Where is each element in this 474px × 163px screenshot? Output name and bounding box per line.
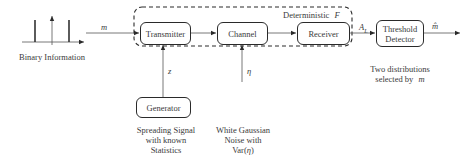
output-m-hat-symbol: m̂	[432, 21, 438, 31]
noise-desc-line1: White Gaussian	[203, 125, 283, 135]
var-prefix: Var(	[232, 145, 247, 155]
channel-label: Channel	[228, 29, 256, 39]
receiver-block: Receiver	[297, 22, 350, 45]
detector-description: Two distributions selected by m	[355, 64, 445, 84]
transmitter-label: Transmitter	[146, 29, 185, 39]
transmitter-block: Transmitter	[140, 22, 191, 45]
generator-desc-line1: Spreading Signal	[126, 125, 206, 135]
input-m-symbol: m	[101, 22, 107, 32]
threshold-detector-label-line2: Detector	[385, 34, 414, 44]
receiver-output-a-l-symbol: AL	[359, 22, 368, 36]
generator-label: Generator	[147, 103, 181, 113]
receiver-label: Receiver	[308, 29, 338, 39]
binary-information-label: Binary Information	[10, 52, 94, 62]
threshold-detector-label-line1: Threshold	[383, 24, 417, 34]
selected-by-text: selected by	[375, 74, 413, 84]
generator-description: Spreading Signal with known Statistics	[126, 125, 206, 155]
binary-information-plot	[22, 16, 84, 45]
deterministic-f-symbol: F	[334, 10, 339, 20]
noise-eta-symbol: η	[247, 66, 251, 76]
generator-block: Generator	[136, 97, 191, 118]
deterministic-f-label: Deterministic F	[283, 10, 340, 20]
var-suffix: )	[251, 145, 254, 155]
channel-block: Channel	[217, 22, 268, 45]
selected-by-m-symbol: m	[418, 74, 424, 84]
noise-desc-line3: Var(η)	[203, 145, 283, 155]
l-subscript: L	[364, 28, 367, 34]
detector-desc-line2: selected by m	[355, 74, 445, 84]
generator-desc-line2: with known	[126, 135, 206, 145]
detector-desc-line1: Two distributions	[355, 64, 445, 74]
spreading-z-symbol: z	[168, 66, 171, 76]
noise-description: White Gaussian Noise with Var(η)	[203, 125, 283, 155]
threshold-detector-block: Threshold Detector	[376, 20, 424, 47]
deterministic-label-text: Deterministic	[283, 10, 329, 20]
noise-desc-line2: Noise with	[203, 135, 283, 145]
generator-desc-line3: Statistics	[126, 145, 206, 155]
